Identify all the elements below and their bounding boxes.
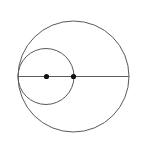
geometry-diagram (0, 0, 141, 151)
large-circle-center-point (71, 74, 76, 79)
diagram-background (0, 0, 141, 151)
small-circle-center-point (44, 74, 49, 79)
geometry-figure-canvas (0, 0, 141, 151)
